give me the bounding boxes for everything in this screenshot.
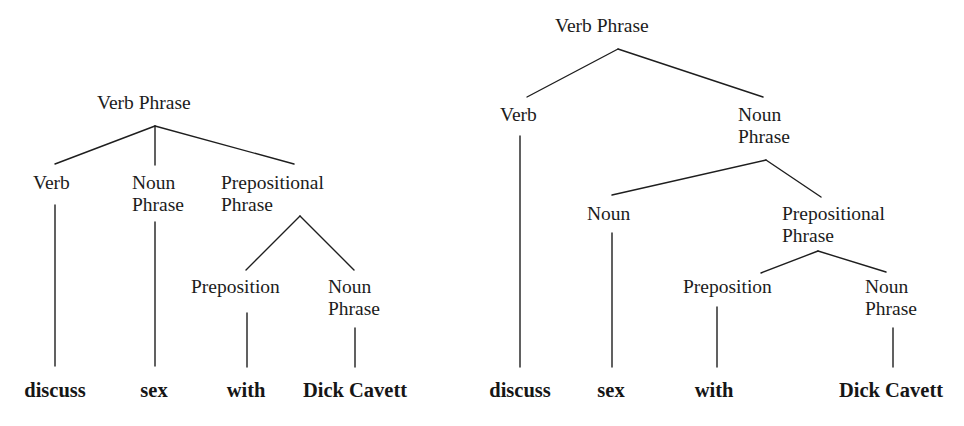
edge-pp-prep [246, 216, 300, 270]
edge-vp-pp [155, 126, 294, 164]
node-label-line1: Noun [865, 276, 917, 298]
leaf-dick-cavett: Dick Cavett [839, 379, 943, 401]
node-verb: Verb [500, 104, 537, 126]
node-label-line1: Noun [738, 104, 790, 126]
edge-pp-np [818, 251, 886, 272]
node-label-line1: Noun [328, 276, 380, 298]
node-label-line2: Phrase [132, 194, 184, 216]
leaf-with: with [227, 379, 266, 401]
leaf-sex: sex [140, 379, 167, 401]
edge-vp-verb [527, 49, 618, 97]
edge-vp-verb [55, 126, 155, 164]
node-verb: Verb [33, 172, 70, 194]
edge-np-noun [612, 160, 766, 195]
node-label-line2: Phrase [738, 126, 790, 148]
left-tree-edges [55, 126, 355, 367]
node-prepositional-phrase: Prepositional Phrase [221, 172, 324, 216]
node-label-line1: Noun [132, 172, 184, 194]
node-label-line2: Phrase [782, 225, 885, 247]
node-prepositional-phrase: Prepositional Phrase [782, 203, 885, 247]
node-verb-phrase: Verb Phrase [555, 15, 649, 37]
leaf-discuss: discuss [489, 379, 551, 401]
node-noun-phrase: Noun Phrase [738, 104, 790, 148]
node-label-line1: Prepositional [221, 172, 324, 194]
node-noun-phrase: Noun Phrase [132, 172, 184, 216]
node-noun-phrase-2: Noun Phrase [865, 276, 917, 320]
edge-np-pp [766, 160, 821, 197]
leaf-with: with [695, 379, 734, 401]
leaf-dick-cavett: Dick Cavett [303, 379, 407, 401]
node-label-line2: Phrase [865, 298, 917, 320]
leaf-discuss: discuss [24, 379, 86, 401]
node-label-line1: Prepositional [782, 203, 885, 225]
node-verb-phrase: Verb Phrase [97, 92, 191, 114]
node-label-line2: Phrase [328, 298, 380, 320]
parse-tree-diagram: Verb Phrase Verb Noun Phrase Preposition… [0, 0, 964, 426]
edge-pp-prep [761, 251, 818, 273]
node-preposition: Preposition [683, 276, 772, 298]
edge-pp-np [300, 216, 354, 270]
node-noun-phrase-2: Noun Phrase [328, 276, 380, 320]
node-label-line2: Phrase [221, 194, 324, 216]
node-noun: Noun [587, 203, 630, 225]
edge-vp-np [618, 49, 763, 97]
node-preposition: Preposition [191, 276, 280, 298]
leaf-sex: sex [597, 379, 624, 401]
